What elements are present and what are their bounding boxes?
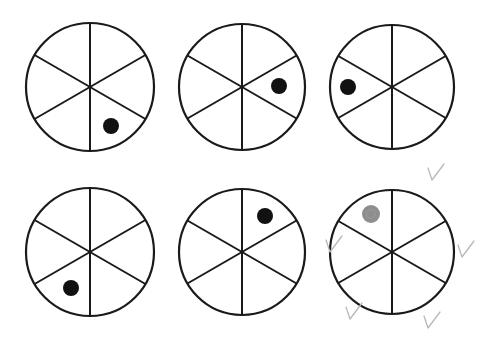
spinner-6 <box>330 190 454 314</box>
check-mark-icon <box>326 236 342 252</box>
marker-dot <box>271 78 287 94</box>
check-mark-icon <box>428 164 444 180</box>
check-mark-icon <box>346 303 362 319</box>
spinner-3 <box>330 25 454 149</box>
check-mark-icon <box>424 312 440 328</box>
marker-dot <box>257 208 273 224</box>
marker-dot <box>103 118 119 134</box>
check-mark-icon <box>458 241 474 257</box>
spinner-worksheet <box>0 0 493 343</box>
marker-dot <box>63 280 79 296</box>
spinner-4 <box>26 188 154 316</box>
spinner-2 <box>179 24 305 150</box>
marker-dot <box>340 79 356 95</box>
pencil-dot <box>362 205 380 223</box>
spinner-1 <box>26 23 154 151</box>
spinner-5 <box>179 189 305 315</box>
